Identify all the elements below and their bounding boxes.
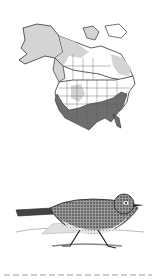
region-florida	[113, 114, 121, 128]
bird-illustration	[12, 190, 152, 255]
bird-tail	[16, 208, 54, 216]
range-map	[15, 18, 150, 133]
caption	[4, 272, 152, 278]
bird-beak	[133, 204, 144, 207]
region-arctic-islands	[83, 26, 99, 40]
region-arctic-islands-2	[105, 24, 127, 38]
bird-eye	[125, 202, 127, 204]
